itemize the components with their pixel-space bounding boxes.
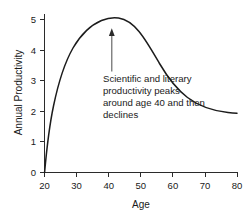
x-tick-label-60: 60 [161,181,185,191]
x-tick-marks [45,173,238,178]
annotation-line-4: declines [103,109,231,121]
annotation-line-3: around age 40 and then [103,97,231,109]
x-tick-label-20: 20 [33,181,57,191]
x-tick-label-70: 70 [193,181,217,191]
annotation-arrow-head [109,28,115,36]
x-tick-label-50: 50 [129,181,153,191]
y-tick-label-0: 0 [18,168,36,178]
annotation-line-1: Scientific and literary [103,73,231,85]
x-tick-label-80: 80 [225,181,249,191]
y-axis-title: Annual Productivity [13,23,24,163]
productivity-chart: 0 1 2 3 4 5 20 30 40 50 60 70 80 Annual … [0,0,249,221]
x-axis-title: Age [44,199,238,210]
y-tick-marks [40,20,45,173]
x-tick-label-30: 30 [65,181,89,191]
annotation-text-block: Scientific and literary productivity pea… [103,73,231,121]
x-tick-label-40: 40 [97,181,121,191]
annotation-line-2: productivity peaks [103,85,231,97]
